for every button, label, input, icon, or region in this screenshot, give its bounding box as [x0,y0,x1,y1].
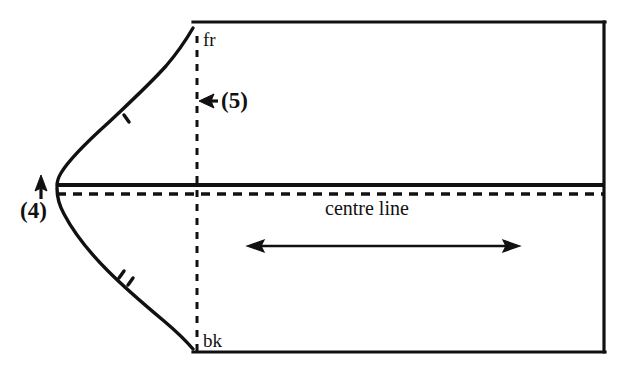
cap-curve-lower [57,188,193,349]
label-front-notch: fr [203,30,216,49]
width-arrow-head-left [247,240,264,252]
label-callout-4: (4) [20,199,47,222]
label-back-notch: bk [203,331,222,350]
cap-curve-upper [57,28,193,186]
notch-upper-single [124,115,129,122]
width-arrow-head-right [503,240,520,252]
diagram-canvas [0,0,636,383]
label-callout-5: (5) [221,89,248,112]
callout-5-arrow [199,94,218,108]
callout-4-arrow [35,175,47,199]
label-centre-line: centre line [325,198,409,218]
width-double-arrow [247,240,520,252]
sleeve-cap-diagram: fr bk centre line (4) (5) [0,0,636,383]
